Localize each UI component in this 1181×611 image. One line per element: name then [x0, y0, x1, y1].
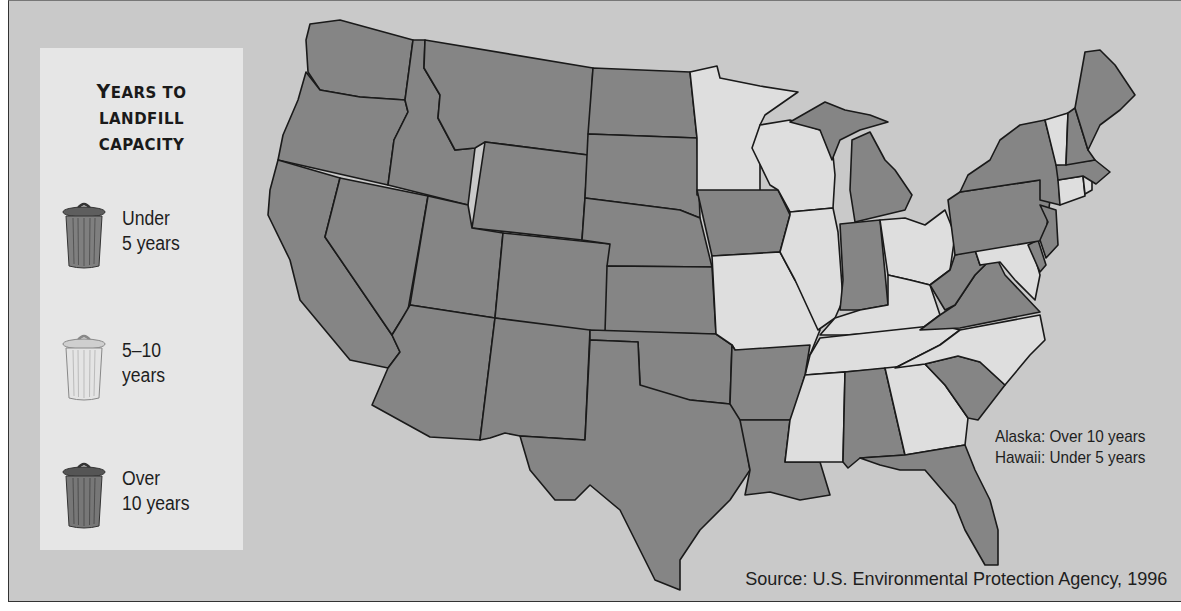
trash-can-icon — [62, 198, 106, 270]
trash-can-icon — [62, 330, 106, 402]
legend-title: YEARS TO LANDFILL CAPACITY — [40, 78, 243, 158]
state-MI — [850, 132, 912, 222]
state-ME — [1075, 50, 1135, 150]
state-CT — [1058, 176, 1085, 205]
state-KS — [605, 266, 716, 334]
state-NM — [480, 318, 590, 440]
state-WY — [472, 142, 588, 240]
legend-panel: YEARS TO LANDFILL CAPACITY Under 5 years… — [40, 48, 243, 550]
state-IA — [697, 190, 790, 256]
legend-item-5-to-10: 5–10 years — [62, 330, 242, 410]
state-ND — [588, 68, 697, 138]
state-MT — [424, 40, 593, 155]
state-WA — [306, 20, 413, 100]
trash-can-icon — [62, 458, 106, 530]
state-IN — [840, 220, 888, 310]
alaska-note: Alaska: Over 10 years — [995, 426, 1146, 447]
source-citation: Source: U.S. Environmental Protection Ag… — [745, 568, 1167, 590]
legend-item-over-10: Over 10 years — [62, 458, 242, 538]
legend-item-under-5: Under 5 years — [62, 198, 242, 278]
hawaii-note: Hawaii: Under 5 years — [995, 447, 1146, 468]
state-FL — [860, 445, 998, 565]
alaska-hawaii-note: Alaska: Over 10 years Hawaii: Under 5 ye… — [995, 426, 1146, 468]
